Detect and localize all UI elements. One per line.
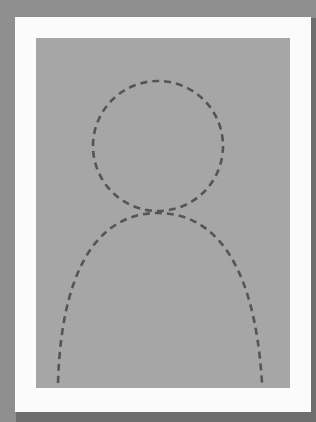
shoulders-outline [58, 213, 262, 383]
head-outline [93, 81, 223, 211]
person-placeholder-icon [0, 0, 316, 422]
